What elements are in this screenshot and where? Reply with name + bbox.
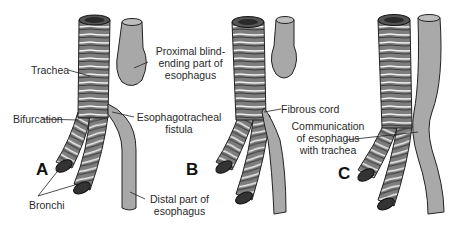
- panel-c-drawing: [356, 15, 444, 215]
- leader-fibrous-cord: [264, 109, 281, 112]
- illustration-canvas: [0, 0, 462, 226]
- label-bronchi: Bronchi: [29, 199, 65, 211]
- label-esophagotracheal-fistula: Esophagotracheal fistula: [134, 111, 224, 135]
- label-bifurcation: Bifurcation: [13, 113, 63, 125]
- panel-letter-a: A: [36, 160, 48, 180]
- panel-a-drawing: [54, 15, 147, 210]
- label-trachea: Trachea: [31, 64, 69, 76]
- label-proximal-blind-ending-esophagus: Proximal blind- ending part of esophagus: [148, 45, 233, 81]
- panel-letter-c: C: [338, 164, 350, 184]
- figure-esophageal-atresia-variants: Trachea Proximal blind- ending part of e…: [0, 0, 462, 226]
- label-fibrous-cord: Fibrous cord: [281, 103, 339, 115]
- panel-letter-b: B: [186, 160, 198, 180]
- label-distal-esophagus: Distal part of esophagus: [142, 193, 217, 217]
- label-communication-esophagus-trachea: Communication of esophagus with trachea: [290, 120, 366, 156]
